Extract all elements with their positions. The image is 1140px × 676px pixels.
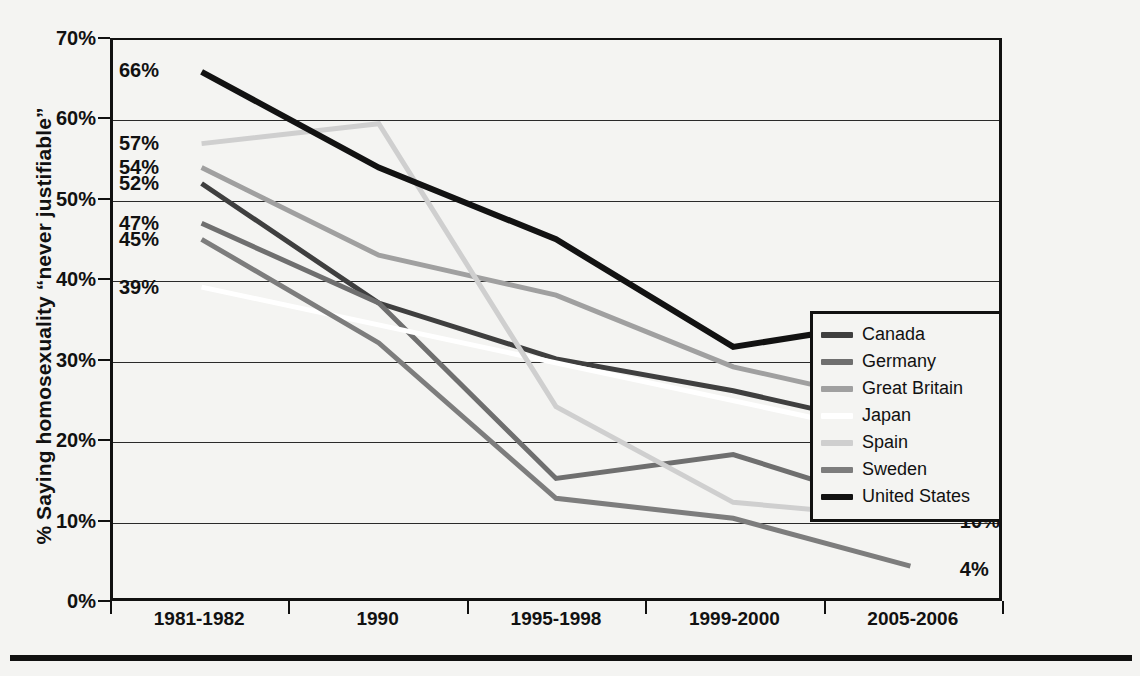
x-axis-tick-mark xyxy=(645,601,647,614)
series-line-spain xyxy=(202,124,911,519)
y-axis-tick-label: 40% xyxy=(18,268,96,291)
y-axis-tick-label: 10% xyxy=(18,509,96,532)
x-axis-tick-label: 1999-2000 xyxy=(689,608,780,630)
bottom-divider-rule xyxy=(10,655,1132,661)
y-axis-tick-mark xyxy=(98,198,110,200)
x-axis-tick-mark xyxy=(288,601,290,614)
legend-item-spain[interactable]: Spain xyxy=(821,429,999,456)
legend-item-label: Canada xyxy=(862,324,925,345)
x-axis-tick-mark xyxy=(824,601,826,614)
legend-item-canada[interactable]: Canada xyxy=(821,321,999,348)
legend-item-sweden[interactable]: Sweden xyxy=(821,456,999,483)
legend-item-label: Sweden xyxy=(862,459,927,480)
y-axis-tick-mark xyxy=(98,439,110,441)
x-axis-tick-label: 1981-1982 xyxy=(154,608,245,630)
start-value-label: 52% xyxy=(119,171,159,194)
legend-item-germany[interactable]: Germany xyxy=(821,348,999,375)
start-value-label: 45% xyxy=(119,228,159,251)
legend-item-great-britain[interactable]: Great Britain xyxy=(821,375,999,402)
y-axis-tick-label: 30% xyxy=(18,348,96,371)
series-line-great-britain xyxy=(202,168,911,407)
series-line-germany xyxy=(202,223,911,510)
x-axis-tick-mark xyxy=(1002,601,1004,614)
x-axis-tick-label: 2005-2006 xyxy=(867,608,958,630)
chart-figure: % Saying homosexuality “never justifiabl… xyxy=(0,0,1140,676)
start-value-label: 57% xyxy=(119,131,159,154)
y-axis-tick-mark xyxy=(98,37,110,39)
legend-swatch-icon xyxy=(821,494,853,500)
y-axis-tick-mark xyxy=(98,117,110,119)
y-axis-tick-label: 60% xyxy=(18,107,96,130)
end-value-label: 4% xyxy=(960,557,989,580)
legend-item-label: United States xyxy=(862,486,970,507)
y-axis-tick-mark xyxy=(98,278,110,280)
legend-item-japan[interactable]: Japan xyxy=(821,402,999,429)
legend-item-label: Great Britain xyxy=(862,378,963,399)
y-axis-tick-mark xyxy=(98,359,110,361)
y-axis-tick-mark xyxy=(98,520,110,522)
y-axis-tick-label: 50% xyxy=(18,187,96,210)
x-axis-tick-mark xyxy=(467,601,469,614)
legend-swatch-icon xyxy=(821,440,853,446)
x-axis-tick-mark xyxy=(110,601,112,614)
legend-item-label: Japan xyxy=(862,405,911,426)
legend-swatch-icon xyxy=(821,386,853,392)
chart-legend: CanadaGermanyGreat BritainJapanSpainSwed… xyxy=(810,311,1002,522)
legend-item-united-states[interactable]: United States xyxy=(821,483,999,510)
y-axis-tick-mark xyxy=(98,600,110,602)
start-value-label: 39% xyxy=(119,276,159,299)
series-line-united-states xyxy=(202,72,911,347)
legend-item-label: Germany xyxy=(862,351,936,372)
legend-swatch-icon xyxy=(821,332,853,338)
legend-item-label: Spain xyxy=(862,432,908,453)
y-axis-tick-label: 0% xyxy=(18,590,96,613)
series-line-japan xyxy=(202,287,911,438)
x-axis-tick-label: 1995-1998 xyxy=(511,608,602,630)
legend-swatch-icon xyxy=(821,467,853,473)
y-axis-tick-label: 20% xyxy=(18,429,96,452)
legend-swatch-icon xyxy=(821,359,853,365)
start-value-label: 66% xyxy=(119,59,159,82)
x-axis-tick-label: 1990 xyxy=(356,608,398,630)
legend-swatch-icon xyxy=(821,413,853,419)
y-axis-tick-label: 70% xyxy=(18,27,96,50)
